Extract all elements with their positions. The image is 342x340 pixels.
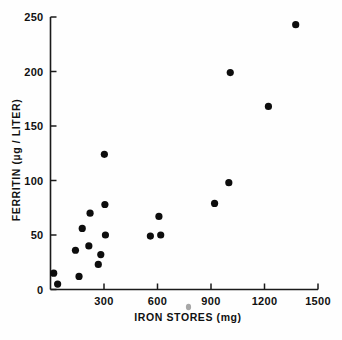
data-point: [97, 251, 104, 258]
y-tick-label: 200: [24, 66, 43, 78]
print-smudge-artifact: [186, 304, 191, 310]
data-point: [79, 225, 86, 232]
data-point: [155, 213, 162, 220]
data-point: [225, 179, 232, 186]
x-tick-label: 300: [94, 295, 113, 307]
x-tick-label: 600: [148, 295, 167, 307]
x-tick-label: 1500: [305, 295, 331, 307]
y-tick-label: 0: [37, 284, 43, 296]
data-point: [85, 242, 92, 249]
data-point: [50, 270, 57, 277]
y-axis-title: FERRITIN (µg / LITER): [10, 99, 22, 221]
data-point: [101, 151, 108, 158]
y-tick-label: 50: [31, 229, 44, 241]
data-point: [147, 232, 154, 239]
y-tick-label: 250: [24, 11, 43, 23]
scatter-plot-figure: 050100150200250 30060090012001500 IRON S…: [0, 0, 342, 340]
x-axis-title: IRON STORES (mg): [134, 311, 241, 323]
y-tick-label: 100: [24, 175, 43, 187]
chart-canvas: 050100150200250 30060090012001500 IRON S…: [0, 0, 342, 340]
data-point: [265, 103, 272, 110]
data-point: [95, 261, 102, 268]
data-point: [72, 247, 79, 254]
data-point: [211, 200, 218, 207]
data-point: [75, 273, 82, 280]
data-point: [102, 231, 109, 238]
data-point: [157, 231, 164, 238]
data-point: [86, 210, 93, 217]
data-point: [54, 280, 61, 287]
data-point: [292, 21, 299, 28]
data-point: [227, 69, 234, 76]
data-point: [101, 201, 108, 208]
x-tick-label: 900: [201, 295, 220, 307]
y-tick-label: 150: [24, 120, 43, 132]
x-tick-label: 1200: [252, 295, 278, 307]
